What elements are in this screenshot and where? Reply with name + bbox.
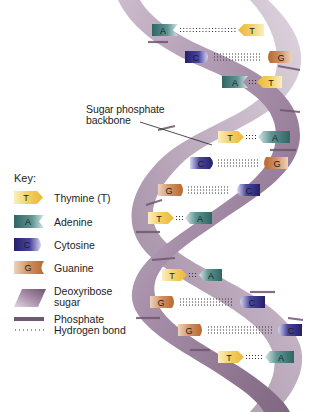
- phosphate-swatch: [14, 317, 44, 321]
- svg-text:A: A: [197, 214, 203, 224]
- svg-text:A: A: [272, 133, 278, 143]
- svg-text:A: A: [208, 271, 214, 281]
- svg-text:G: G: [277, 53, 284, 63]
- svg-text:G: G: [185, 326, 192, 336]
- deoxyribose-sugar-swatch: [14, 289, 46, 307]
- base-pair-5: C G: [190, 157, 288, 169]
- base-pair-11: T A: [218, 351, 294, 363]
- svg-text:A: A: [25, 217, 31, 227]
- svg-text:T: T: [249, 26, 255, 36]
- key-label-thymine: Thymine (T): [54, 192, 111, 204]
- key-title: Key:: [14, 172, 36, 184]
- svg-text:C: C: [198, 159, 205, 169]
- base-pair-4: T A: [218, 131, 290, 143]
- dna-helix-diagram: A T C G A T T A C G: [0, 0, 311, 412]
- base-pair-2: C G: [185, 51, 292, 63]
- svg-text:G: G: [165, 186, 172, 196]
- key-label-sugar-line2: sugar: [54, 296, 80, 308]
- callout-line-2: backbone: [86, 115, 164, 126]
- key-swatches: T A C G: [14, 191, 46, 330]
- svg-text:C: C: [249, 298, 256, 308]
- svg-text:A: A: [160, 26, 166, 36]
- key-label-hydrogen-bond: Hydrogen bond: [54, 324, 126, 336]
- svg-text:T: T: [23, 193, 29, 203]
- svg-text:C: C: [288, 326, 295, 336]
- key-label-adenine: Adenine: [54, 216, 93, 228]
- svg-text:T: T: [156, 214, 162, 224]
- svg-text:T: T: [226, 353, 232, 363]
- key-label-cytosine: Cytosine: [54, 239, 95, 251]
- svg-text:C: C: [24, 240, 31, 250]
- base-pair-6: G C: [158, 184, 260, 196]
- backbone-callout-label: Sugar phosphate backbone: [86, 104, 164, 126]
- svg-text:A: A: [278, 353, 284, 363]
- key-label-guanine: Guanine: [54, 262, 94, 274]
- svg-text:A: A: [232, 78, 238, 88]
- svg-text:T: T: [268, 78, 274, 88]
- base-pair-9: G C: [150, 296, 265, 308]
- svg-text:C: C: [193, 53, 200, 63]
- svg-text:G: G: [273, 159, 280, 169]
- svg-text:C: C: [246, 186, 253, 196]
- base-pair-7: T A: [148, 212, 212, 224]
- svg-text:T: T: [169, 271, 175, 281]
- key-label-deoxyribose-sugar: Deoxyribose sugar: [54, 286, 112, 308]
- svg-text:T: T: [227, 133, 233, 143]
- svg-text:G: G: [157, 298, 164, 308]
- base-pair-1: A T: [152, 24, 264, 36]
- base-pair-10: G C: [178, 324, 302, 336]
- svg-text:G: G: [24, 263, 31, 273]
